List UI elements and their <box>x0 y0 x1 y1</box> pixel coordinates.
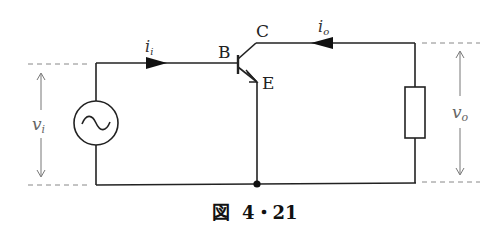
collector-label: C <box>256 21 269 41</box>
figure-caption-number: 4・21 <box>242 202 298 223</box>
input-voltage-label: vi <box>32 114 45 136</box>
emitter-arrow-icon <box>246 70 257 82</box>
ac-source-icon <box>74 101 118 145</box>
output-voltage-dashes <box>422 43 480 182</box>
base-label: B <box>218 42 231 62</box>
junction-dot <box>253 180 260 187</box>
circuit-wires <box>96 43 416 185</box>
output-voltage-label: vo <box>452 102 469 124</box>
figure-caption-prefix: 図 <box>212 202 230 223</box>
input-current-label: ii <box>145 37 153 57</box>
emitter-label: E <box>262 73 274 93</box>
load-resistor-icon <box>405 87 425 138</box>
input-current-arrow-icon <box>146 57 167 69</box>
output-current-arrow-icon <box>311 37 333 49</box>
output-current-label: io <box>318 17 329 37</box>
circuit-diagram: vi vo B C E <box>0 0 502 232</box>
